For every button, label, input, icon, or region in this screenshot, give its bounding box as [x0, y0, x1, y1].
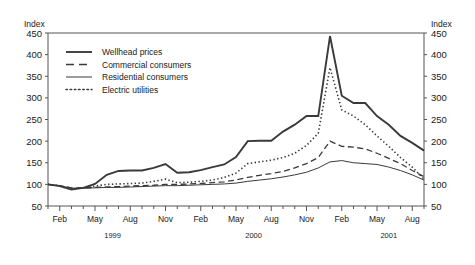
series-line-commercial-consumers	[48, 141, 424, 188]
y-tick-label-right: 400	[431, 49, 447, 60]
y-tick-label-left: 150	[26, 157, 42, 168]
y-tick-label-right: 250	[431, 114, 447, 125]
x-tick-label: Aug	[123, 214, 138, 224]
y-tick-label-right: 100	[431, 179, 447, 190]
y-tick-label-right: 50	[431, 201, 442, 212]
y-tick-label-left: 250	[26, 114, 42, 125]
x-tick-label: Feb	[193, 214, 208, 224]
year-label: 2000	[245, 231, 262, 240]
y-tick-label-right: 350	[431, 71, 447, 82]
y-tick-label-right: 450	[431, 28, 447, 39]
y-tick-label-left: 400	[26, 49, 42, 60]
y-tick-label-left: 450	[26, 28, 42, 39]
legend-label-commercial-consumers: Commercial consumers	[102, 60, 191, 70]
x-tick-label: Aug	[264, 214, 279, 224]
x-tick-label: May	[87, 214, 104, 224]
x-tick-label: Nov	[299, 214, 315, 224]
x-tick-label: May	[228, 214, 245, 224]
y-tick-label-right: 150	[431, 157, 447, 168]
year-label: 1999	[104, 231, 121, 240]
y-tick-label-left: 100	[26, 179, 42, 190]
y-tick-label-left: 200	[26, 136, 42, 147]
y-axis-title-right: Index	[431, 19, 453, 29]
y-tick-label-left: 300	[26, 92, 42, 103]
y-tick-label-left: 350	[26, 71, 42, 82]
x-tick-label: Feb	[334, 214, 349, 224]
y-tick-label-right: 300	[431, 92, 447, 103]
x-tick-label: Feb	[52, 214, 67, 224]
x-tick-label: Aug	[405, 214, 420, 224]
gas-price-index-chart: 5050100100150150200200250250300300350350…	[0, 0, 475, 265]
y-tick-label-right: 200	[431, 136, 447, 147]
legend-label-residential-consumers: Residential consumers	[102, 72, 188, 82]
year-label: 2001	[380, 231, 397, 240]
x-tick-label: Nov	[158, 214, 174, 224]
legend-label-wellhead-prices: Wellhead prices	[102, 47, 162, 57]
x-tick-label: May	[369, 214, 386, 224]
legend-label-electric-utilities: Electric utilities	[102, 85, 158, 95]
chart-canvas: 5050100100150150200200250250300300350350…	[0, 0, 475, 265]
y-axis-title-left: Index	[24, 19, 46, 29]
y-tick-label-left: 50	[31, 201, 42, 212]
